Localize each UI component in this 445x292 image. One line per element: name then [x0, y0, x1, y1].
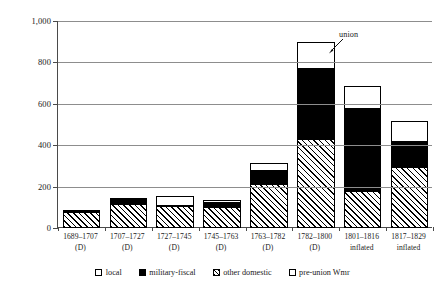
legend-label: other domestic	[223, 268, 271, 277]
x-axis-label: 1707–1727(D)	[104, 232, 151, 253]
legend-item[interactable]: other domestic	[213, 268, 272, 277]
legend-label: local	[106, 268, 122, 277]
gridline-400	[58, 145, 432, 146]
bar-segment[interactable]	[344, 108, 382, 192]
y-axis-label-800: 800	[38, 57, 51, 67]
x-axis-tick	[58, 227, 59, 231]
x-axis-tick	[152, 227, 153, 231]
bar-segment[interactable]	[156, 206, 194, 228]
bar-segment[interactable]	[250, 170, 288, 185]
bar-group[interactable]	[110, 198, 148, 227]
legend-label: military-fiscal	[149, 268, 195, 277]
x-axis-label-period: 1707–1727	[110, 232, 145, 241]
legend-swatch-icon	[213, 269, 220, 276]
bar-segment[interactable]	[344, 191, 382, 228]
x-axis-tick	[339, 227, 340, 231]
legend-item[interactable]: pre-union Wmr	[289, 268, 350, 277]
x-axis-labels: 1689–1707(D)1707–1727(D)1727–1745(D)1745…	[57, 232, 432, 258]
x-axis-label-period: 1817–1829	[391, 232, 426, 241]
x-axis-label: 1817–1829inflated	[385, 232, 432, 253]
legend-swatch-icon	[139, 269, 146, 276]
x-axis-label-note: inflated	[338, 243, 385, 254]
chart-root: 02004006008001,000 1689–1707(D)1707–1727…	[0, 0, 445, 292]
gridline-1000	[58, 21, 432, 22]
plot-area: 02004006008001,000	[57, 21, 432, 228]
bar-segment[interactable]	[391, 167, 429, 228]
bar-segment[interactable]	[110, 204, 148, 228]
y-axis-tick-600	[53, 104, 58, 105]
x-axis-label-period: 1763–1782	[251, 232, 286, 241]
bar-segment[interactable]	[250, 184, 288, 229]
x-axis-label-note: (D)	[245, 243, 292, 254]
x-axis-label-period: 1745–1763	[204, 232, 239, 241]
bar-group[interactable]	[156, 196, 194, 227]
legend-item[interactable]: military-fiscal	[139, 268, 196, 277]
bar-group[interactable]	[391, 121, 429, 227]
chart-legend: localmilitary-fiscalother domesticpre-un…	[0, 268, 445, 277]
x-axis-tick	[246, 227, 247, 231]
x-axis-tick	[433, 227, 434, 231]
y-axis-tick-800	[53, 62, 58, 63]
legend-label: pre-union Wmr	[299, 268, 350, 277]
bar-segment[interactable]	[391, 121, 429, 142]
bar-segment[interactable]	[63, 212, 101, 228]
x-axis-label: 1801–1816inflated	[338, 232, 385, 253]
x-axis-label-period: 1801–1816	[344, 232, 379, 241]
x-axis-label: 1745–1763(D)	[198, 232, 245, 253]
x-axis-tick	[386, 227, 387, 231]
x-axis-label-note: inflated	[385, 243, 432, 254]
x-axis-tick	[292, 227, 293, 231]
y-axis-label-600: 600	[38, 99, 51, 109]
x-axis-label-note: (D)	[291, 243, 338, 254]
bars-layer	[58, 21, 432, 227]
y-axis-label-1000: 1,000	[31, 16, 51, 26]
x-axis-label: 1782–1800(D)	[291, 232, 338, 253]
bar-group[interactable]	[63, 210, 101, 227]
y-axis-tick-1000	[53, 21, 58, 22]
y-axis-tick-200	[53, 187, 58, 188]
legend-swatch-icon	[95, 269, 102, 276]
x-axis-label-period: 1727–1745	[157, 232, 192, 241]
x-axis-label-note: (D)	[104, 243, 151, 254]
gridline-800	[58, 62, 432, 63]
x-axis-label-period: 1689–1707	[63, 232, 98, 241]
bar-group[interactable]	[250, 163, 288, 227]
y-axis-label-0: 0	[47, 223, 51, 233]
gridline-200	[58, 187, 432, 188]
x-axis-label: 1727–1745(D)	[151, 232, 198, 253]
bar-group[interactable]	[203, 200, 241, 227]
bar-group[interactable]	[344, 86, 382, 227]
y-axis-label-200: 200	[38, 182, 51, 192]
y-axis-tick-400	[53, 145, 58, 146]
x-axis-tick	[199, 227, 200, 231]
gridline-600	[58, 104, 432, 105]
x-axis-tick	[105, 227, 106, 231]
x-axis-label-note: (D)	[57, 243, 104, 254]
x-axis-label: 1763–1782(D)	[245, 232, 292, 253]
bar-group[interactable]	[297, 42, 335, 227]
x-axis-label-note: (D)	[151, 243, 198, 254]
x-axis-label: 1689–1707(D)	[57, 232, 104, 253]
bar-segment[interactable]	[344, 86, 382, 109]
bar-segment[interactable]	[297, 139, 335, 228]
x-axis-label-note: (D)	[198, 243, 245, 254]
legend-swatch-icon	[289, 269, 296, 276]
bar-segment[interactable]	[203, 207, 241, 228]
y-axis-label-400: 400	[38, 140, 51, 150]
x-axis-label-period: 1782–1800	[298, 232, 333, 241]
legend-item[interactable]: local	[95, 268, 121, 277]
union-annotation-arrow-icon	[327, 38, 345, 54]
